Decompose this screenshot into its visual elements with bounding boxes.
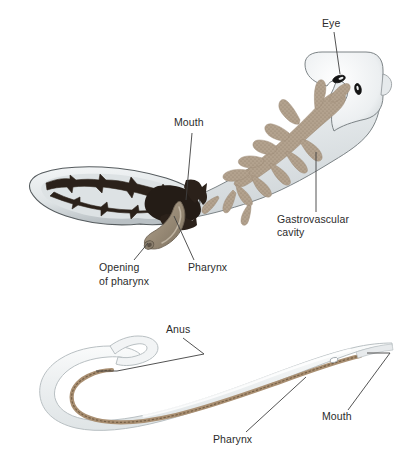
label-mouth-nematode: Mouth <box>322 410 352 423</box>
biology-figure: Eye Mouth Gastrovascular cavity Pharynx … <box>0 0 407 472</box>
label-eye: Eye <box>322 17 340 30</box>
label-gastrovascular-cavity-line1: Gastrovascular <box>277 213 349 226</box>
opening-of-pharynx-leader-line <box>134 243 148 260</box>
figure-illustration <box>0 0 407 472</box>
label-opening-of-pharynx-line2: of pharynx <box>99 275 149 288</box>
label-gastrovascular-cavity-line2: cavity <box>277 226 304 239</box>
label-anus: Anus <box>166 323 190 336</box>
label-opening-of-pharynx-line1: Opening <box>99 261 139 274</box>
label-pharynx-flatworm: Pharynx <box>188 261 227 274</box>
mouth-leader-line-bottom <box>348 353 390 410</box>
flatworm-auricle <box>381 74 392 95</box>
label-pharynx-nematode: Pharynx <box>213 433 252 446</box>
label-mouth-flatworm: Mouth <box>174 116 204 129</box>
